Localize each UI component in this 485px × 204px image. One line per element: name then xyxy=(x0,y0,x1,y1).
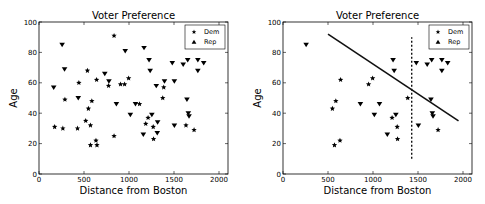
y-tick-label: 60 xyxy=(272,79,281,87)
y-tick-label: 40 xyxy=(28,110,37,118)
y-tick-label: 40 xyxy=(272,110,281,118)
y-tick-label: 20 xyxy=(272,140,281,148)
x-axis-label: Distance from Boston xyxy=(80,185,188,196)
x-axis-label: Distance from Boston xyxy=(324,185,432,196)
y-tick-label: 80 xyxy=(272,49,281,57)
legend: DemRep xyxy=(185,25,225,49)
x-tick-label: 0 xyxy=(281,176,285,184)
y-axis-label: Age xyxy=(252,88,263,107)
x-tick-label: 1500 xyxy=(165,176,183,184)
x-tick-label: 1500 xyxy=(409,176,427,184)
x-tick-label: 2000 xyxy=(210,176,228,184)
y-tick-label: 0 xyxy=(277,171,281,179)
legend-label: Dem xyxy=(448,28,463,36)
legend: DemRep xyxy=(429,25,469,49)
y-axis-label: Age xyxy=(8,88,19,107)
y-tick-label: 100 xyxy=(24,19,37,27)
chart-2: 0500100015002000020406080100Voter Prefer… xyxy=(252,10,472,196)
legend-label: Dem xyxy=(204,28,219,36)
x-tick-label: 1000 xyxy=(120,176,138,184)
y-tick-label: 100 xyxy=(268,19,281,27)
y-tick-label: 60 xyxy=(28,79,37,87)
x-tick-label: 2000 xyxy=(454,176,472,184)
x-tick-label: 0 xyxy=(37,176,41,184)
y-tick-label: 20 xyxy=(28,140,37,148)
x-tick-label: 500 xyxy=(77,176,90,184)
chart-1: 0500100015002000020406080100Voter Prefer… xyxy=(8,10,228,196)
chart-title: Voter Preference xyxy=(336,10,419,21)
x-tick-label: 1000 xyxy=(364,176,382,184)
legend-label: Rep xyxy=(448,38,460,46)
y-tick-label: 80 xyxy=(28,49,37,57)
x-tick-label: 500 xyxy=(321,176,334,184)
chart-title: Voter Preference xyxy=(92,10,175,21)
figure: 0500100015002000020406080100Voter Prefer… xyxy=(0,0,485,204)
y-tick-label: 0 xyxy=(33,171,37,179)
legend-label: Rep xyxy=(204,38,216,46)
